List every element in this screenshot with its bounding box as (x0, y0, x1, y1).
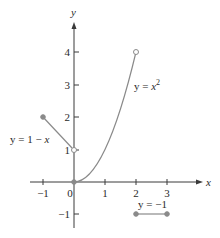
label-x-squared: y = x2 (134, 78, 160, 92)
closed-endpoint-dot (134, 212, 139, 217)
label-minus-one: y = −1 (138, 198, 167, 210)
label-exponent: 2 (156, 78, 160, 87)
closed-endpoint-dot (72, 180, 77, 185)
label-one-minus-x: y = 1 − x (10, 133, 49, 145)
series-x-squared (72, 50, 139, 185)
open-endpoint-dot (134, 50, 139, 55)
x-axis-arrow-icon (196, 180, 203, 185)
closed-endpoint-dot (41, 115, 46, 120)
axes: x y (30, 6, 211, 228)
x-tick-label: −1 (37, 187, 49, 199)
y-axis-arrow-icon (72, 22, 77, 29)
x-tick-label: 0 (67, 187, 73, 199)
y-axis-label: y (70, 6, 76, 18)
closed-endpoint-dot (165, 212, 170, 217)
piecewise-function-graph: x y −1 0 1 2 3 −1 1 2 3 4 (0, 0, 220, 238)
y-tick-label: 3 (65, 79, 71, 91)
y-tick-label: 4 (65, 46, 71, 58)
open-endpoint-dot (72, 148, 77, 153)
curve-x-squared (74, 52, 136, 182)
label-prefix: y = (134, 80, 151, 92)
x-axis-label: x (205, 176, 211, 188)
y-tick-label: −1 (58, 208, 70, 220)
label-prefix: y = 1 − (10, 133, 44, 145)
series-minus-one (134, 212, 170, 217)
label-variable: x (43, 133, 49, 145)
x-tick-label: 1 (102, 187, 108, 199)
y-tick-label: 2 (65, 111, 71, 123)
